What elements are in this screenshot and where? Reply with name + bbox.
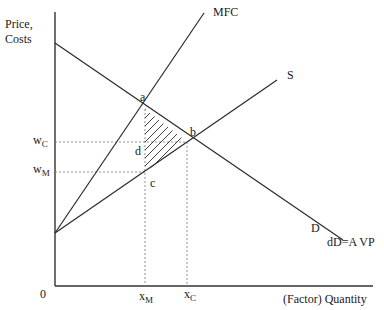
wm-label-sub: M <box>42 168 50 178</box>
point-c-label: c <box>150 177 155 189</box>
wc-label-sub: C <box>42 139 48 149</box>
wc-label: wC <box>33 134 48 149</box>
wc-label-main: w <box>33 133 42 147</box>
xc-label-sub: C <box>190 293 196 303</box>
wm-label-main: w <box>33 162 42 176</box>
demand-avp-label: dD=A VP <box>327 236 375 248</box>
origin-label: 0 <box>40 288 46 300</box>
y-axis-label-line1: Price, <box>5 17 33 32</box>
supply-curve <box>55 80 277 233</box>
x-axis-label: (Factor) Quantity <box>283 293 367 305</box>
mfc-label: MFC <box>213 6 238 18</box>
wm-label: wM <box>33 163 50 178</box>
xm-label-sub: M <box>145 295 153 305</box>
xc-label: xC <box>184 288 196 303</box>
demand-label: D <box>311 222 320 234</box>
xm-label: xM <box>139 290 153 305</box>
point-a-label: a <box>140 91 145 103</box>
monopsony-diagram <box>0 0 384 310</box>
supply-label: S <box>287 69 294 81</box>
mfc-curve <box>55 13 204 233</box>
y-axis-label-line2: Costs <box>5 32 33 47</box>
y-axis-label: Price, Costs <box>5 17 33 47</box>
point-b-label: b <box>190 126 196 138</box>
demand-curve <box>55 43 343 240</box>
point-d-label: d <box>135 145 141 157</box>
